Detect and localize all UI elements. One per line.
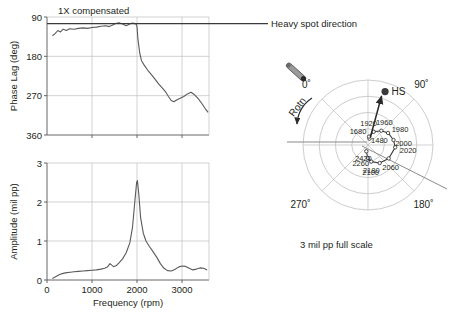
polar-data-point bbox=[386, 131, 389, 134]
polar-speed-label: 1680 bbox=[350, 127, 367, 136]
polar-speed-label: 1980 bbox=[392, 125, 409, 134]
amp-xlabel: Frequency (rpm) bbox=[93, 297, 163, 308]
amp-ylabel: Amplitude (mil pp) bbox=[8, 183, 19, 260]
polar-data-point bbox=[380, 129, 383, 132]
amp-xtick-label: 0 bbox=[44, 284, 49, 295]
amplitude-curve bbox=[52, 181, 207, 279]
one-x-compensated-label: 1X compensated bbox=[58, 5, 129, 16]
shaft-key-icon bbox=[285, 62, 307, 82]
polar-data-point bbox=[365, 150, 368, 153]
polar-angle-label: 180˚ bbox=[413, 199, 433, 210]
polar-data-point bbox=[387, 157, 390, 160]
phase-ytick-label: 180 bbox=[26, 51, 42, 62]
amp-ytick-label: 1 bbox=[37, 236, 42, 247]
amp-xtick-label: 1000 bbox=[81, 284, 102, 295]
vibration-figure: 90180270360Heavy spot direction1X compen… bbox=[0, 0, 457, 321]
heavy-spot-marker-label: HS bbox=[392, 86, 406, 97]
polar-angle-label: 90˚ bbox=[414, 79, 428, 90]
amp-xtick-label: 2000 bbox=[126, 284, 147, 295]
heavy-spot-direction-label: Heavy spot direction bbox=[271, 18, 357, 29]
amp-ytick-label: 2 bbox=[37, 197, 42, 208]
polar-data-point bbox=[378, 161, 381, 164]
amp-ytick-label: 3 bbox=[37, 158, 42, 169]
figure-canvas: 90180270360Heavy spot direction1X compen… bbox=[0, 0, 457, 321]
polar-angle-label: 270˚ bbox=[291, 199, 311, 210]
phase-curve bbox=[52, 23, 208, 113]
polar-caption: 3 mil pp full scale bbox=[300, 239, 373, 250]
phase-ytick-label: 360 bbox=[26, 130, 42, 141]
rotation-label: Rotn bbox=[286, 95, 308, 118]
heavy-spot-marker-dot bbox=[381, 88, 388, 95]
polar-speed-label: 1960 bbox=[376, 118, 393, 127]
amp-xtick-label: 3000 bbox=[171, 284, 192, 295]
phase-ylabel: Phase Lag (deg) bbox=[8, 41, 19, 111]
polar-speed-label: 1480 bbox=[371, 136, 388, 145]
phase-ytick-label: 270 bbox=[26, 90, 42, 101]
phase-ytick-label: 90 bbox=[31, 12, 42, 23]
polar-speed-label: 2060 bbox=[382, 163, 399, 172]
amp-ytick-label: 0 bbox=[37, 275, 42, 286]
polar-speed-label: 2020 bbox=[400, 146, 417, 155]
polar-speed-label: 2420 bbox=[355, 154, 372, 163]
